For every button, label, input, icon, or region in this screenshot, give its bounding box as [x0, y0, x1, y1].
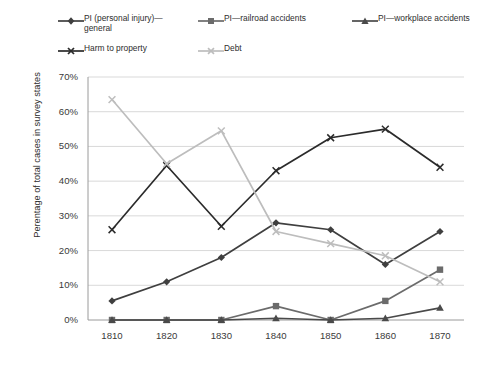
- data-point-x: [218, 223, 225, 230]
- data-point-x: [218, 127, 225, 134]
- data-point-diamond: [163, 278, 170, 285]
- data-point-square: [382, 298, 388, 304]
- series-line: [112, 270, 440, 320]
- data-point-x: [109, 96, 116, 103]
- data-point-x: [437, 164, 444, 171]
- series-x: [109, 96, 444, 285]
- line-chart-figure: PI (personal injury)— general PI—railroa…: [0, 0, 483, 365]
- data-point-square: [437, 266, 443, 272]
- data-point-diamond: [108, 297, 115, 304]
- series-line: [112, 129, 440, 230]
- data-point-x: [109, 226, 116, 233]
- series-line: [112, 100, 440, 282]
- data-point-diamond: [436, 228, 443, 235]
- data-point-triangle: [436, 304, 444, 311]
- data-point-x: [273, 167, 280, 174]
- series-line: [112, 223, 440, 301]
- data-point-x: [437, 278, 444, 285]
- data-point-square: [273, 303, 279, 309]
- chart-canvas: [0, 0, 483, 365]
- series-x: [109, 126, 444, 233]
- plot-area: Perentage of total cases in survey state…: [0, 0, 483, 365]
